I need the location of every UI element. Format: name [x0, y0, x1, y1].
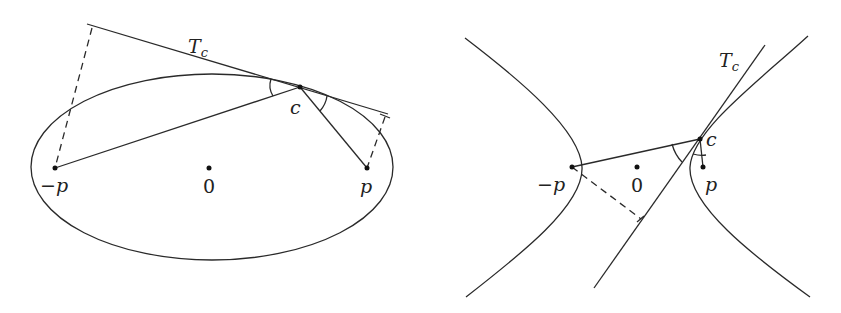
tangent-label: Tc — [719, 49, 740, 74]
focal-segment-right — [700, 139, 703, 167]
ellipse-curve — [31, 74, 393, 260]
point-minus-p-dot — [53, 166, 58, 171]
tangent-line — [87, 24, 388, 114]
origin-label: 0 — [203, 175, 215, 197]
angle-arc-right — [320, 96, 327, 111]
angle-arc-right — [693, 154, 706, 155]
minus-p-label: −p — [40, 174, 68, 196]
origin-label: 0 — [631, 174, 643, 196]
hyperbola-left-branch — [465, 38, 582, 297]
hyperbola-right-branch — [690, 36, 810, 297]
hyperbola-figure — [465, 36, 810, 297]
point-c-dot — [298, 85, 303, 90]
point-c-label: c — [706, 128, 717, 150]
focal-segment-left — [55, 87, 300, 168]
p-label: p — [705, 173, 717, 195]
tangent-label: Tc — [188, 35, 209, 60]
ellipse-figure — [31, 24, 393, 260]
perpendicular-dashed-right — [367, 117, 385, 168]
p-label: p — [360, 175, 372, 197]
point-minus-p-dot — [570, 165, 575, 170]
perpendicular-dashed-left — [55, 28, 92, 168]
point-c-label: c — [290, 96, 301, 118]
minus-p-label: −p — [537, 173, 565, 195]
angle-arc-left — [270, 79, 273, 96]
point-origin-dot — [635, 165, 640, 170]
point-p-dot — [701, 165, 706, 170]
point-p-dot — [365, 166, 370, 171]
angle-arc-left — [672, 144, 682, 162]
diagram-canvas: Tc c −p 0 p Tc c −p 0 p — [0, 0, 841, 313]
focal-segment-right — [300, 87, 367, 168]
focal-segment-left — [572, 139, 700, 167]
point-c-dot — [698, 137, 703, 142]
tangent-line — [594, 45, 765, 288]
point-origin-dot — [207, 166, 212, 171]
